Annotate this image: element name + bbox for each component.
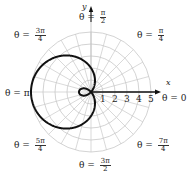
angle-label-pi: θ = π xyxy=(5,89,30,98)
r-tick-3: 3 xyxy=(124,94,130,104)
x-axis-label: x xyxy=(166,78,171,87)
angle-label-pi-over-4: θ = π4 xyxy=(137,28,164,43)
angle-label-0: θ = 0 xyxy=(162,94,186,103)
angle-label-7pi-over-4: θ = 7π4 xyxy=(137,138,169,153)
r-tick-1: 1 xyxy=(100,94,106,104)
angle-label-3pi-over-2: θ = 3π2 xyxy=(79,158,111,173)
angle-label-5pi-over-4: θ = 5π4 xyxy=(14,138,46,153)
angle-label-pi-over-2: θ = π2 xyxy=(79,10,106,25)
r-tick-4: 4 xyxy=(136,94,142,104)
r-tick-5: 5 xyxy=(148,94,154,104)
r-tick-2: 2 xyxy=(112,94,118,104)
x-arrow-icon xyxy=(155,90,161,95)
angle-label-3pi-over-4: θ = 3π4 xyxy=(14,28,46,43)
